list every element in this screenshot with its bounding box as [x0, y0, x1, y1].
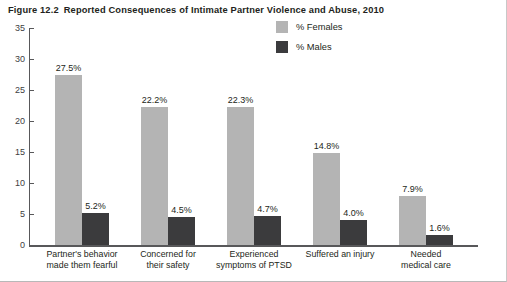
figure-container: Figure 12.2Reported Consequences of Inti…	[0, 0, 507, 282]
bar-females: 22.2%	[141, 107, 168, 245]
bar-value-label: 7.9%	[402, 184, 423, 194]
y-axis-tick-label: 35	[15, 23, 25, 33]
bar-value-label: 22.3%	[228, 95, 254, 105]
y-axis-tick-label: 25	[15, 85, 25, 95]
y-axis-tick-mark	[29, 183, 34, 184]
bar-females: 27.5%	[55, 75, 82, 246]
bar-value-label: 4.7%	[257, 204, 278, 214]
bar-males: 5.2%	[82, 213, 109, 245]
bar-value-label: 4.5%	[171, 205, 192, 215]
bar-males: 4.7%	[254, 216, 281, 245]
y-axis-tick-mark	[29, 214, 34, 215]
y-axis-tick-mark	[29, 59, 34, 60]
y-axis-tick-mark	[29, 245, 34, 246]
bar-group: 7.9%1.6%	[399, 28, 453, 245]
legend-label-males: % Males	[296, 42, 332, 52]
chart-legend: % Females % Males	[276, 17, 416, 57]
bar-group: 27.5%5.2%	[55, 28, 109, 245]
bar-females: 14.8%	[313, 153, 340, 245]
bar-group: 22.2%4.5%	[141, 28, 195, 245]
legend-item-females: % Females	[276, 17, 416, 37]
bar-group: 14.8%4.0%	[313, 28, 367, 245]
bar-value-label: 14.8%	[314, 141, 340, 151]
bar-males: 1.6%	[426, 235, 453, 245]
y-axis-tick-mark	[29, 152, 34, 153]
category-label-line: symptoms of PTSD	[194, 260, 314, 271]
legend-label-females: % Females	[296, 22, 343, 32]
figure-number: Figure 12.2	[8, 5, 59, 15]
bar-females: 7.9%	[399, 196, 426, 245]
x-axis-category-label: Neededmedical care	[366, 249, 486, 271]
bar-value-label: 27.5%	[56, 63, 82, 73]
figure-title-text: Reported Consequences of Intimate Partne…	[64, 5, 384, 15]
y-axis-tick-label: 30	[15, 54, 25, 64]
bar-value-label: 1.6%	[429, 223, 450, 233]
bar-males: 4.0%	[340, 220, 367, 245]
bar-females: 22.3%	[227, 107, 254, 245]
y-axis-tick-label: 10	[15, 178, 25, 188]
y-axis-tick-label: 15	[15, 147, 25, 157]
legend-item-males: % Males	[276, 37, 416, 57]
y-axis-tick-label: 20	[15, 116, 25, 126]
y-axis-tick-mark	[29, 90, 34, 91]
bar-value-label: 22.2%	[142, 95, 168, 105]
y-axis-tick-mark	[29, 121, 34, 122]
category-label-line: Needed	[366, 249, 486, 260]
category-label-line: medical care	[366, 260, 486, 271]
bar-value-label: 4.0%	[343, 208, 364, 218]
y-axis-tick-label: 5	[20, 209, 25, 219]
y-axis-tick-mark	[29, 28, 34, 29]
figure-title: Figure 12.2Reported Consequences of Inti…	[8, 5, 384, 15]
legend-swatch-males-icon	[276, 41, 288, 53]
bar-value-label: 5.2%	[85, 201, 106, 211]
plot-area: 05101520253035 27.5%5.2%22.2%4.5%22.3%4.…	[29, 28, 478, 245]
x-axis-line	[29, 245, 478, 247]
legend-swatch-females-icon	[276, 21, 288, 33]
bar-males: 4.5%	[168, 217, 195, 245]
bar-group: 22.3%4.7%	[227, 28, 281, 245]
